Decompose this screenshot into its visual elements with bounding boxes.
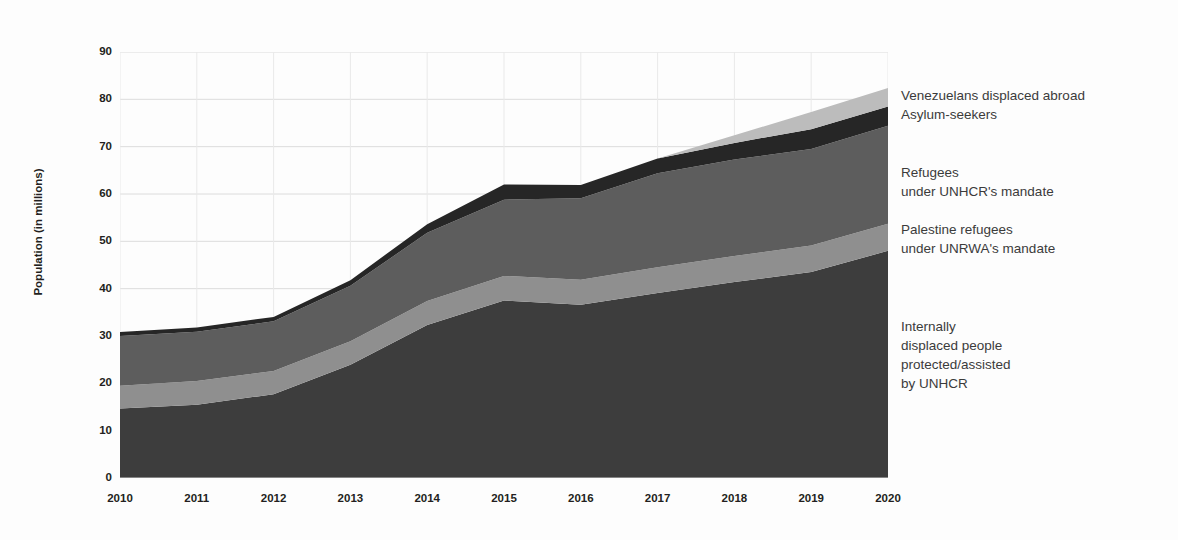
legend-entry: Venezuelans displaced abroad Asylum-seek… [901,86,1171,124]
x-axis-tick-label: 2011 [167,493,227,505]
legend-entry: Internally displaced people protected/as… [901,317,1171,393]
x-axis-tick-label: 2020 [858,493,918,505]
x-axis-tick-labels: 2010201120122013201420152016201720182019… [120,493,888,513]
y-axis-tick-label: 60 [78,188,112,200]
legend-entry: Refugees under UNHCR's mandate [901,163,1171,201]
x-axis-tick-label: 2013 [320,493,380,505]
y-axis-tick-labels: 0102030405060708090 [72,52,112,478]
x-axis-tick-label: 2010 [90,493,150,505]
y-axis-tick-label: 0 [78,472,112,484]
y-axis-tick-label: 10 [78,425,112,437]
y-axis-tick-label: 80 [78,94,112,106]
chart-legend: Venezuelans displaced abroad Asylum-seek… [901,52,1171,478]
x-axis-tick-label: 2014 [397,493,457,505]
x-axis-tick-label: 2018 [704,493,764,505]
y-axis-tick-label: 20 [78,378,112,390]
y-axis-title: Population (in millions) [32,142,44,322]
x-axis-tick-label: 2019 [781,493,841,505]
plot-area: Internally displaced people protected/as… [120,52,888,478]
x-axis-tick-label: 2017 [628,493,688,505]
x-axis-tick-label: 2016 [551,493,611,505]
x-axis-tick-label: 2012 [244,493,304,505]
y-axis-tick-label: 90 [78,46,112,58]
x-axis-tick-label: 2015 [474,493,534,505]
legend-entry: Palestine refugees under UNRWA's mandate [901,220,1171,258]
y-axis-tick-label: 30 [78,330,112,342]
chart-page: Population (in millions) 010203040506070… [0,0,1178,540]
y-axis-tick-label: 50 [78,236,112,248]
stacked-area-chart: Internally displaced people protected/as… [120,52,888,478]
y-axis-tick-label: 70 [78,141,112,153]
y-axis-tick-label: 40 [78,283,112,295]
